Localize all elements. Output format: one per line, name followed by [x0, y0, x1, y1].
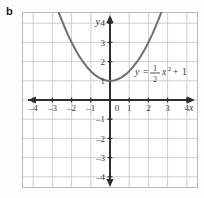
svg-text:3: 3 [101, 38, 106, 48]
figure-panel: b –4–3–2–101234–4–3–2–11234 x y y = 1 [0, 0, 204, 198]
svg-text:–1: –1 [95, 114, 105, 124]
coordinate-plane-svg: –4–3–2–101234–4–3–2–11234 x y y = 1 2 x … [22, 12, 198, 188]
y-axis-label: y [95, 16, 101, 27]
equation-fraction-denominator: 2 [153, 75, 157, 84]
equation-constant: 1 [182, 67, 187, 77]
svg-text:–3: –3 [95, 153, 106, 163]
equation-exponent: 2 [168, 65, 171, 72]
svg-text:–1: –1 [85, 103, 95, 113]
x-axis-label: x [188, 102, 194, 113]
svg-text:3: 3 [165, 103, 170, 113]
equation-equals: = [143, 67, 148, 77]
part-label: b [6, 6, 13, 17]
equation-fraction-numerator: 1 [153, 64, 157, 73]
svg-text:2: 2 [146, 103, 151, 113]
svg-text:4: 4 [101, 18, 106, 28]
equation-plus: + [173, 67, 178, 77]
svg-text:–4: –4 [95, 172, 106, 182]
svg-text:–2: –2 [66, 103, 76, 113]
svg-text:–4: –4 [28, 103, 38, 113]
svg-text:1: 1 [101, 76, 106, 86]
svg-text:–3: –3 [47, 103, 58, 113]
svg-text:2: 2 [101, 57, 106, 67]
svg-text:–2: –2 [95, 134, 105, 144]
equation-lhs: y [134, 67, 140, 77]
svg-text:1: 1 [127, 103, 132, 113]
coordinate-plane: –4–3–2–101234–4–3–2–11234 x y y = 1 2 x … [22, 12, 198, 188]
equation-variable: x [161, 67, 167, 77]
svg-text:0: 0 [115, 103, 120, 113]
